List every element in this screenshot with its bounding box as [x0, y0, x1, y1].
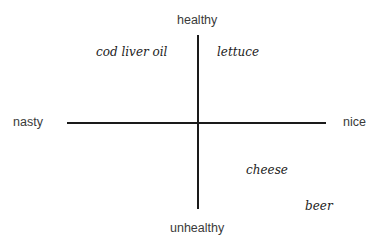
vertical-axis-line [197, 35, 199, 209]
item-cheese: cheese [246, 164, 288, 176]
item-lettuce: lettuce [217, 46, 259, 58]
item-beer: beer [305, 200, 333, 212]
axis-label-top: healthy [177, 14, 217, 27]
axis-label-bottom: unhealthy [170, 222, 224, 235]
item-cod-liver-oil: cod liver oil [96, 46, 167, 58]
axis-label-right: nice [343, 116, 366, 129]
axis-label-left: nasty [13, 116, 43, 129]
